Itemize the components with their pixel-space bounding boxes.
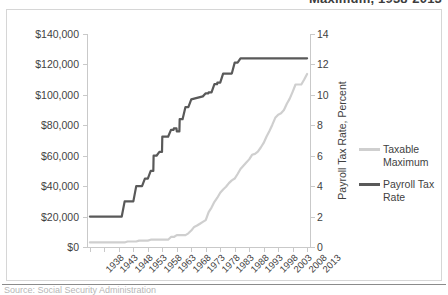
left-axis-tick-label: $40,000 [7,180,79,192]
right-axis-tick [311,125,315,126]
x-axis-tick [278,248,279,252]
x-axis-tick [206,248,207,252]
series-line [90,58,307,216]
source-caption: Source: Social Security Administration [4,286,156,295]
left-axis-tick-label: $100,000 [7,89,79,101]
chart-card: $0$20,000$40,000$60,000$80,000$100,000$1… [6,9,442,281]
right-axis-tick [311,247,315,248]
chart-legend: Taxable MaximumPayroll Tax Rate [359,143,441,213]
left-axis-tick-label: $140,000 [7,28,79,40]
right-axis-tick [311,156,315,157]
x-axis-tick [249,248,250,252]
x-axis-tick [293,248,294,252]
legend-swatch-icon [359,148,380,151]
source-divider [2,284,446,285]
left-axis-tick-label: $80,000 [7,119,79,131]
right-axis-tick [311,217,315,218]
x-axis-tick [220,248,221,252]
source-strip: Source: Social Security Administration [4,286,444,295]
right-axis-tick-label: 2 [317,211,323,223]
left-axis-tick-label: $60,000 [7,150,79,162]
x-axis-tick [119,248,120,252]
legend-label: Taxable Maximum [383,143,429,168]
right-axis-tick-label: 6 [317,150,323,162]
x-axis-tick [104,248,105,252]
legend-item[interactable]: Payroll Tax Rate [359,178,441,204]
series-lines [87,34,310,247]
right-axis-tick-label: 14 [317,28,329,40]
right-axis-tick [311,95,315,96]
right-axis-tick-label: 0 [317,241,323,253]
left-axis-tick [83,247,87,248]
x-axis-tick [307,248,308,252]
right-axis-tick [311,64,315,65]
right-axis-tick-label: 4 [317,180,323,192]
legend-swatch-icon [359,183,380,186]
x-axis-tick [264,248,265,252]
left-axis-tick-label: $120,000 [7,58,79,70]
x-axis-tick [90,248,91,252]
right-axis-tick-label: 10 [317,89,329,101]
right-axis-tick-label: 12 [317,58,329,70]
x-axis-tick [235,248,236,252]
x-axis-tick [191,248,192,252]
x-axis-tick [177,248,178,252]
right-axis-tick-label: 8 [317,119,323,131]
chart-screenshot: Maximum, 1938-2013 $0$20,000$40,000$60,0… [0,0,448,295]
right-axis-title: Payroll Tax Rate, Percent [335,34,349,247]
page-title: Maximum, 1938-2013 [309,0,442,6]
right-axis-tick [311,34,315,35]
right-axis-line [310,34,311,247]
left-axis-tick-label: $20,000 [7,211,79,223]
x-axis-tick [133,248,134,252]
left-axis-tick-label: $0 [7,241,79,253]
plot-area [87,34,310,247]
right-axis-tick [311,186,315,187]
chart-title-strip: Maximum, 1938-2013 [0,0,448,9]
legend-label: Payroll Tax Rate [383,178,434,203]
x-axis-tick [148,248,149,252]
legend-item[interactable]: Taxable Maximum [359,143,441,169]
x-axis-tick [162,248,163,252]
